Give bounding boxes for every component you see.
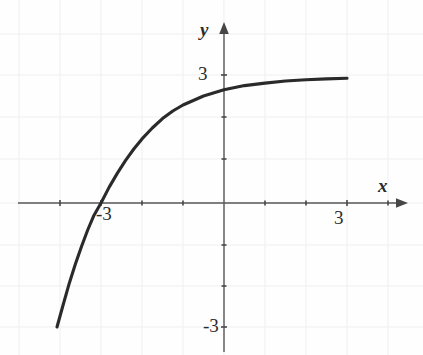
y-axis-tick-label-3: 3 [198, 64, 208, 83]
graph-figure: y x 3 -3 3 -3 [0, 0, 423, 355]
y-axis-label: y [200, 20, 208, 39]
x-axis-tick-label-negative-3: -3 [96, 204, 112, 223]
x-axis-label: x [378, 176, 388, 195]
y-axis [219, 22, 229, 352]
y-axis-tick-label-negative-3: -3 [203, 316, 219, 335]
x-axis-tick-label-3: 3 [334, 208, 344, 227]
x-axis [18, 198, 408, 208]
plot-canvas [0, 0, 423, 355]
